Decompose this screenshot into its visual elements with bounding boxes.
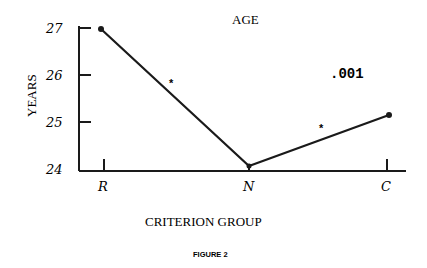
x-tick-label-n: N xyxy=(242,179,255,194)
y-tick-label-26: 26 xyxy=(45,68,63,83)
y-tick-label-25: 25 xyxy=(45,115,63,130)
age-series-line xyxy=(101,29,389,166)
significance-star-rn: * xyxy=(169,77,174,89)
significance-star-nc: * xyxy=(319,122,324,134)
age-chart: 27 26 25 24 R N C YEARS AGE .001 * * CRI… xyxy=(0,0,427,268)
x-axis-label: CRITERION GROUP xyxy=(145,214,262,229)
y-tick-label-24: 24 xyxy=(45,162,63,177)
y-tick-label-27: 27 xyxy=(45,21,63,36)
chart-title: AGE xyxy=(232,12,259,27)
y-axis-label: YEARS xyxy=(24,74,39,117)
figure-caption: FIGURE 2 xyxy=(193,250,228,259)
data-point-r xyxy=(98,26,104,32)
data-point-c xyxy=(386,112,392,118)
x-tick-label-c: C xyxy=(381,179,391,194)
significance-label: .001 xyxy=(330,66,364,82)
data-point-n xyxy=(247,164,252,169)
x-tick-label-r: R xyxy=(97,179,108,194)
